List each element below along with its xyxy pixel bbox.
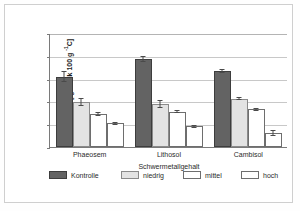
legend-swatch: [183, 171, 201, 179]
bar[interactable]: [231, 99, 248, 147]
error-bar: [194, 125, 195, 128]
chart-frame: 00,511,522,5 Biomasse [ g Cmik 100 g -1C…: [4, 4, 293, 203]
legend-swatch: [241, 171, 259, 179]
bar-slot: [231, 34, 248, 147]
legend-label: hoch: [263, 172, 278, 179]
error-bar: [273, 130, 274, 135]
legend-label: niedrig: [143, 172, 164, 179]
bar[interactable]: [107, 123, 124, 147]
error-bar: [177, 110, 178, 113]
error-bar: [115, 122, 116, 125]
bar-slot: [73, 34, 90, 147]
bar[interactable]: [265, 133, 282, 147]
bar[interactable]: [56, 77, 73, 147]
x-tick-label: Phaeosem: [50, 151, 130, 158]
legend-item[interactable]: niedrig: [121, 171, 164, 179]
bar-slot: [56, 34, 73, 147]
bar-group: [50, 34, 129, 147]
error-bar: [160, 100, 161, 108]
error-bar: [256, 108, 257, 111]
legend-swatch: [49, 171, 67, 179]
bar-groups: [50, 34, 287, 147]
plot-area: 00,511,522,5 Biomasse [ g Cmik 100 g -1C…: [49, 34, 287, 148]
bar[interactable]: [248, 109, 265, 147]
error-bar: [222, 69, 223, 74]
bar-slot: [214, 34, 231, 147]
y-tick-mark: [47, 148, 50, 149]
bar-slot: [169, 34, 186, 147]
error-bar: [64, 71, 65, 82]
bar[interactable]: [152, 104, 169, 147]
legend-item[interactable]: hoch: [241, 171, 278, 179]
x-tick-label: Lithosol: [129, 151, 209, 158]
legend-swatch: [121, 171, 139, 179]
bar[interactable]: [214, 71, 231, 147]
bar-slot: [186, 34, 203, 147]
bar-group: [129, 34, 208, 147]
bar-slot: [107, 34, 124, 147]
x-tick-label: Cambisol: [208, 151, 288, 158]
error-bar: [81, 98, 82, 106]
bar[interactable]: [90, 114, 107, 147]
bar-slot: [135, 34, 152, 147]
error-bar: [98, 112, 99, 117]
legend: Kontrolleniedrigmittelhoch: [49, 168, 289, 182]
bar[interactable]: [169, 112, 186, 147]
legend-item[interactable]: mittel: [183, 171, 222, 179]
bar[interactable]: [135, 59, 152, 147]
bar-slot: [265, 34, 282, 147]
error-bar: [239, 97, 240, 101]
bar-group: [208, 34, 287, 147]
bar-slot: [248, 34, 265, 147]
legend-label: Kontrolle: [71, 172, 99, 179]
legend-item[interactable]: Kontrolle: [49, 171, 99, 179]
bar[interactable]: [186, 126, 203, 147]
figure: 00,511,522,5 Biomasse [ g Cmik 100 g -1C…: [0, 0, 300, 211]
error-bar: [143, 56, 144, 61]
bar-slot: [152, 34, 169, 147]
legend-label: mittel: [205, 172, 222, 179]
bar[interactable]: [73, 102, 90, 147]
bar-slot: [90, 34, 107, 147]
